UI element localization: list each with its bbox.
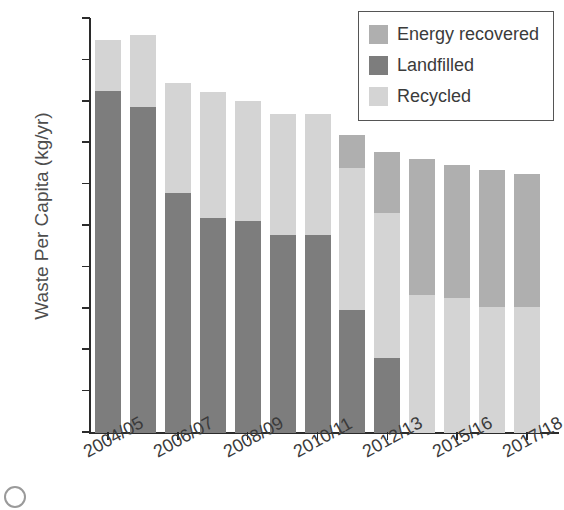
- bar-2013-14[interactable]: [409, 159, 435, 433]
- y-tick-mark: [82, 431, 90, 433]
- chart-legend: Energy recovered Landfilled Recycled: [358, 11, 554, 121]
- bar-segment-landfilled: [305, 235, 331, 433]
- bar-segment-recycled: [130, 35, 156, 107]
- bar-segment-landfilled: [270, 235, 296, 433]
- y-tick-mark: [82, 17, 90, 19]
- bar-segment-landfilled: [165, 193, 191, 433]
- y-axis-title: Waste Per Capita (kg/yr): [31, 6, 53, 426]
- bar-2006-07[interactable]: [165, 83, 191, 433]
- y-tick-mark: [82, 100, 90, 102]
- legend-item: Recycled: [369, 81, 545, 112]
- bar-segment-landfilled: [130, 107, 156, 433]
- legend-label-landfilled: Landfilled: [397, 55, 474, 76]
- bar-2009-10[interactable]: [270, 114, 296, 433]
- y-tick-mark: [82, 224, 90, 226]
- y-tick-mark: [82, 390, 90, 392]
- bar-segment-recycled: [374, 213, 400, 359]
- legend-label-energy-recovered: Energy recovered: [397, 24, 539, 45]
- bar-segment-energy-recovered: [479, 170, 505, 307]
- bar-2011-12[interactable]: [339, 135, 365, 433]
- y-tick-mark: [82, 307, 90, 309]
- bar-2005-06[interactable]: [130, 35, 156, 433]
- y-tick-mark: [82, 59, 90, 61]
- bar-2004-05[interactable]: [95, 40, 121, 433]
- bar-segment-recycled: [305, 114, 331, 235]
- bar-2012-13[interactable]: [374, 151, 400, 433]
- bar-segment-recycled: [339, 168, 365, 310]
- bar-segment-recycled: [235, 101, 261, 221]
- legend-swatch-landfilled: [369, 56, 388, 75]
- waste-per-capita-stacked-bar-chart: Waste Per Capita (kg/yr) 500450400350300…: [0, 0, 564, 510]
- y-tick-mark: [82, 183, 90, 185]
- y-tick-mark: [82, 266, 90, 268]
- y-tick-mark: [82, 348, 90, 350]
- bar-2015-16[interactable]: [444, 165, 470, 433]
- bar-segment-energy-recovered: [514, 174, 540, 307]
- bar-segment-recycled: [270, 114, 296, 235]
- bar-segment-energy-recovered: [374, 152, 400, 213]
- bar-2008-09[interactable]: [235, 101, 261, 433]
- bar-segment-recycled: [514, 307, 540, 433]
- legend-item: Landfilled: [369, 50, 545, 81]
- legend-swatch-energy-recovered: [369, 25, 388, 44]
- bar-2010-11[interactable]: [305, 114, 331, 433]
- page-corner-mark: [4, 486, 26, 508]
- bar-segment-landfilled: [200, 218, 226, 433]
- bar-2016-17[interactable]: [479, 170, 505, 433]
- legend-swatch-recycled: [369, 87, 388, 106]
- bar-segment-energy-recovered: [339, 135, 365, 168]
- y-tick-mark: [82, 141, 90, 143]
- bar-segment-landfilled: [235, 221, 261, 433]
- legend-label-recycled: Recycled: [397, 86, 471, 107]
- legend-item: Energy recovered: [369, 19, 545, 50]
- bar-2007-08[interactable]: [200, 92, 226, 433]
- bar-segment-recycled: [200, 92, 226, 218]
- bar-segment-recycled: [409, 295, 435, 433]
- bar-segment-recycled: [165, 83, 191, 193]
- bar-segment-energy-recovered: [444, 165, 470, 298]
- y-axis-line: [89, 18, 91, 434]
- bar-segment-recycled: [444, 298, 470, 433]
- bar-2017-18[interactable]: [514, 174, 540, 433]
- bar-segment-recycled: [95, 40, 121, 91]
- bar-segment-landfilled: [95, 91, 121, 433]
- bar-segment-energy-recovered: [409, 159, 435, 295]
